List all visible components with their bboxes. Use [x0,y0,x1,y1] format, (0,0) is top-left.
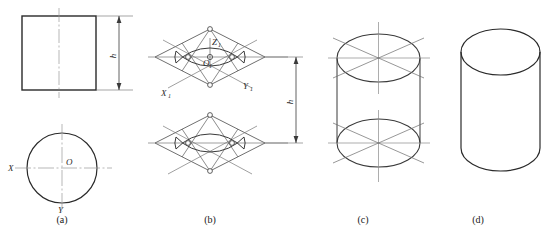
dimension-arrow-top [117,16,122,23]
arc-centre-marker-bottom [208,83,213,88]
axis-label-x1: X [160,88,167,98]
cylinder-bottom-arc-d [461,148,540,171]
panel-d [461,29,540,171]
arc-centre-marker-left [186,55,191,60]
panel-b: Z 1 O 1 X 1 Y 1 [148,27,303,174]
height-label-b: h [285,99,295,104]
caption-panel-d: (d) [458,214,498,225]
arc-centre-marker-top [208,27,213,32]
caption-panel-b: (b) [190,214,230,225]
figure-drawing-canvas: h X Y O [0,0,546,240]
cylinder-top-ellipse-d [461,29,540,75]
arc-centre-marker-b-bottom [208,169,213,174]
origin-label-a: O [66,157,73,167]
origin-label-o1-subscript: 1 [209,63,212,69]
arc-centre-marker-b-top [208,113,213,118]
panel-c [328,22,430,182]
arc-centre-marker-b-right [230,141,235,146]
axis-label-y1-subscript: 1 [250,86,253,92]
axis-label-x1-subscript: 1 [168,93,171,99]
arc-centre-marker-right [230,55,235,60]
axis-label-x-a: X [7,163,14,173]
axis-label-z1-subscript: 1 [218,42,221,48]
caption-panel-c: (c) [343,214,383,225]
isometric-cylinder-figure: h X Y O [0,0,546,240]
caption-panel-a: (a) [42,214,82,225]
dimension-arrow-b-top [294,57,299,64]
panel-b-top-construction: Z 1 O 1 X 1 Y 1 [148,27,288,99]
panel-a: h X Y O [7,8,133,215]
height-label-a: h [108,53,118,58]
dimension-arrow-b-bottom [294,136,299,143]
dimension-arrow-bottom [117,83,122,90]
arc-centre-marker-b-left [186,141,191,146]
